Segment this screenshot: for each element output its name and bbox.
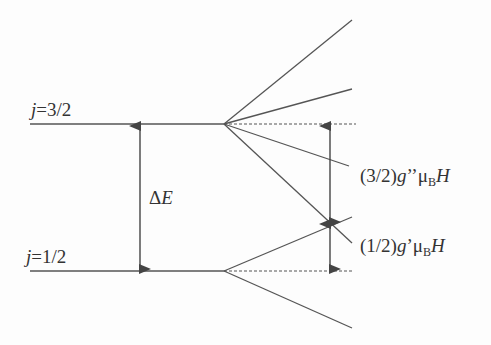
energy-level-diagram: j=3/2 j=1/2 ΔE (3/2)g’’μBH (1/2)g’μBH <box>0 0 491 345</box>
upper-sublevel-2 <box>224 89 352 124</box>
mu: μ <box>418 165 428 186</box>
upper-splitting-label: (3/2)g’’μBH <box>360 166 450 188</box>
g-factor: g <box>397 165 407 186</box>
lower-sublevel-1 <box>224 217 352 271</box>
field: H <box>436 165 450 186</box>
prime: ’’ <box>406 165 417 186</box>
j-value: =3/2 <box>36 99 71 120</box>
delta-symbol: Δ <box>149 187 161 208</box>
factor: (3/2) <box>360 165 397 186</box>
upper-level-label: j=3/2 <box>31 100 71 119</box>
lower-splitting-label: (1/2)g’μBH <box>360 236 445 258</box>
j-value: =1/2 <box>31 246 66 267</box>
factor: (1/2) <box>360 235 397 256</box>
delta-e-label: ΔE <box>149 188 173 207</box>
g-factor: g <box>397 235 407 256</box>
mu: μ <box>413 235 423 256</box>
lower-sublevel-2 <box>224 271 352 328</box>
subscript: B <box>428 175 436 189</box>
subscript: B <box>423 245 431 259</box>
upper-sublevel-1 <box>224 20 352 124</box>
field: H <box>431 235 445 256</box>
lower-level-label: j=1/2 <box>26 247 66 266</box>
energy-symbol: E <box>161 187 173 208</box>
